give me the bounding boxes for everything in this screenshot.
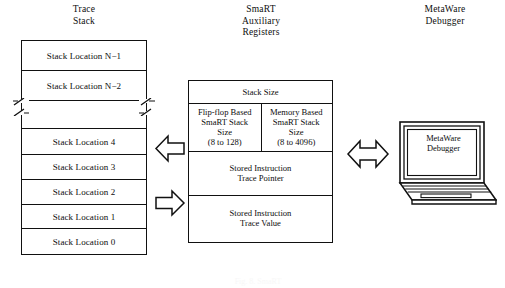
stack-row: Stack Location 4 xyxy=(22,129,146,155)
block-arrow-right-icon xyxy=(155,188,185,218)
aux-memory-cell: Memory Based SmaRT Stack Size (8 to 4096… xyxy=(261,103,333,151)
stack-row-break xyxy=(22,101,146,129)
laptop-icon xyxy=(393,121,497,205)
stack-row: Stack Location 1 xyxy=(22,205,146,229)
aux-divider-vertical xyxy=(261,103,262,151)
trace-stack-box: Stack Location N−1 Stack Location N−2 St… xyxy=(21,40,147,255)
block-arrow-left-icon xyxy=(155,132,185,165)
metaware-debugger-laptop: MetaWare Debugger xyxy=(393,121,497,205)
aux-trace-value-cell: Stored Instruction Trace Value xyxy=(189,195,332,241)
aux-stack-size-header: Stack Size xyxy=(189,81,332,103)
aux-flip-flop-cell: Flip-flop Based SmaRT Stack Size (8 to 1… xyxy=(189,103,261,151)
stack-row: Stack Location N−1 xyxy=(22,41,146,71)
debugger-title: MetaWare Debugger xyxy=(398,4,492,27)
stack-row: Stack Location 3 xyxy=(22,155,146,180)
stack-row: Stack Location N−2 xyxy=(22,71,146,101)
aux-registers-box: Stack Size Flip-flop Based SmaRT Stack S… xyxy=(188,80,333,243)
trace-stack-title: Trace Stack xyxy=(42,4,126,27)
aux-trace-pointer-cell: Stored Instruction Trace Pointer xyxy=(189,151,332,195)
block-arrow-double-icon xyxy=(347,136,389,172)
stack-row: Stack Location 2 xyxy=(22,180,146,205)
figure-canvas: Trace Stack SmaRT Auxiliary Registers Me… xyxy=(0,0,505,288)
stack-row: Stack Location 0 xyxy=(22,229,146,254)
figure-caption-fragment: Fig. 8. SmaRT xyxy=(178,277,338,286)
aux-registers-title: SmaRT Auxiliary Registers xyxy=(216,4,306,39)
